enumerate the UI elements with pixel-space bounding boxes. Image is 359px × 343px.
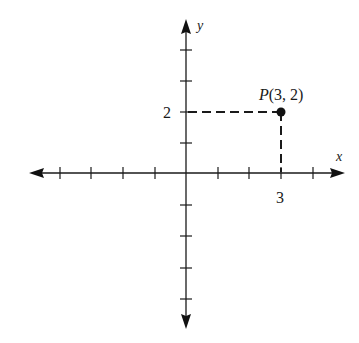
x-tick-label-3: 3 xyxy=(276,189,284,206)
coordinate-plane: y x 2 3 P(3, 2) xyxy=(0,0,359,343)
x-axis-label: x xyxy=(335,149,343,164)
point-label: P(3, 2) xyxy=(258,86,303,104)
point-label-name: P xyxy=(258,86,269,103)
y-axis xyxy=(180,19,192,329)
y-tick-label-2: 2 xyxy=(163,104,171,121)
x-axis xyxy=(29,167,345,179)
y-axis-down-arrow-icon xyxy=(181,314,191,329)
y-axis-label: y xyxy=(195,18,204,33)
point-label-coords: (3, 2) xyxy=(269,86,304,104)
x-axis-right-arrow-icon xyxy=(330,168,345,178)
y-axis-up-arrow-icon xyxy=(181,19,191,34)
point-p xyxy=(277,108,286,117)
x-axis-left-arrow-icon xyxy=(29,168,44,178)
